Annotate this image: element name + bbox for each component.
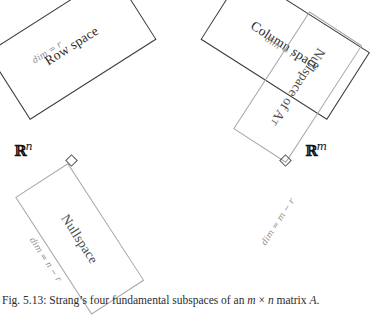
row-space-label: Row space <box>0 0 157 120</box>
caption-symbol-m: m <box>247 294 255 306</box>
caption-text-part-1: Strang’s four fundamental subspaces of a… <box>46 294 247 306</box>
figure-caption: Fig. 5.13: Strang’s four fundamental sub… <box>2 294 355 306</box>
nullspace-of-a-transpose-dim-label: dim = m − r <box>259 196 296 246</box>
caption-times-symbol: × <box>256 294 268 306</box>
domain-exponent-n: n <box>25 140 32 153</box>
blackboard-r-right: ℝ <box>305 142 316 160</box>
caption-period: . <box>316 294 319 306</box>
caption-figure-number: Fig. 5.13: <box>2 294 46 306</box>
domain-label-rn: ℝn <box>14 140 33 160</box>
domain-exponent-m: m <box>316 140 326 153</box>
blackboard-r-left: ℝ <box>14 142 25 160</box>
domain-label-rm: ℝm <box>305 140 327 160</box>
subspace-row-space: Row space <box>0 0 157 120</box>
caption-text-part-2: matrix <box>274 294 310 306</box>
